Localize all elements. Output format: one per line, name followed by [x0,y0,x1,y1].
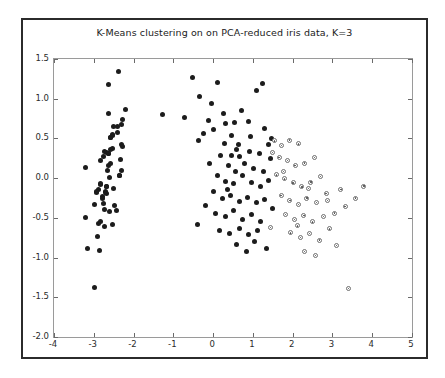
data-point [104,184,109,189]
data-point [111,186,116,191]
data-point [313,253,318,258]
data-point [296,202,301,207]
x-tick [372,333,373,337]
data-point [102,224,107,229]
data-point [226,163,231,168]
data-point [112,203,117,208]
data-point [240,217,245,222]
data-point [209,101,214,106]
data-point [306,186,311,191]
y-tick-right [408,59,412,60]
data-point [308,180,313,185]
data-point [258,219,263,224]
x-tick [213,333,214,337]
data-point [107,175,112,180]
data-point [279,193,284,198]
data-point [246,119,251,124]
data-point [307,231,312,236]
y-tick-label: -0.5 [32,212,49,222]
x-tick [253,333,254,337]
data-point [291,180,296,185]
data-point [327,226,332,231]
y-tick [54,59,58,60]
data-point [100,196,105,201]
data-point [120,144,125,149]
data-point [251,166,256,171]
y-tick-right [408,138,412,139]
x-tick [332,333,333,337]
data-point [262,197,267,202]
y-tick-right [408,99,412,100]
x-tick-top [213,59,214,63]
data-point [287,198,292,203]
data-point [283,212,288,217]
x-tick-label: 1 [249,339,254,349]
y-tick-label: -2.0 [32,331,49,341]
data-point [318,174,323,179]
data-point [110,132,115,137]
data-point [227,231,232,236]
data-point [242,161,247,166]
y-tick-right [408,218,412,219]
data-point [260,81,265,86]
data-point [285,158,290,163]
data-point [108,161,113,166]
data-point [229,153,234,158]
data-point [321,214,326,219]
data-point [83,215,88,220]
data-point [221,111,226,116]
data-point [117,173,122,178]
data-point [201,131,206,136]
x-tick [134,333,135,337]
data-point [237,199,242,204]
y-tick [54,178,58,179]
data-point [218,153,223,158]
data-point [268,225,273,230]
data-point [292,217,297,222]
x-tick-label: 3 [329,339,334,349]
data-point [317,238,322,243]
x-tick-top [134,59,135,63]
x-tick-label: 2 [289,339,294,349]
data-point [228,193,233,198]
x-tick [412,333,413,337]
data-point [119,122,124,127]
data-point [295,223,300,228]
figure-canvas: K-Means clustering on on PCA-reduced iri… [21,18,428,359]
data-point [234,242,239,247]
data-point [247,149,252,154]
data-point [257,151,262,156]
data-point [302,161,307,166]
data-point [119,168,124,173]
x-tick-label: 4 [369,339,374,349]
x-tick-top [412,59,413,63]
data-point [223,121,228,126]
data-point [288,230,293,235]
data-point [95,234,100,239]
data-point [296,141,301,146]
data-point [92,285,97,290]
data-point [195,222,200,227]
data-point [203,203,208,208]
data-point [255,228,260,233]
y-tick-label: -1.0 [32,252,49,262]
data-point [222,141,227,146]
data-point [106,151,111,156]
data-point [232,120,237,125]
data-point [115,130,120,135]
data-point [196,138,201,143]
data-point [268,156,273,161]
data-point [225,187,230,192]
data-point [338,187,343,192]
data-point [118,157,123,162]
data-point [353,196,358,201]
data-point [244,249,249,254]
y-tick [54,258,58,259]
x-tick-top [293,59,294,63]
data-point [190,75,195,80]
data-point [217,228,222,233]
x-tick-top [332,59,333,63]
data-point [293,163,298,168]
data-point [102,207,107,212]
data-point [264,246,269,251]
